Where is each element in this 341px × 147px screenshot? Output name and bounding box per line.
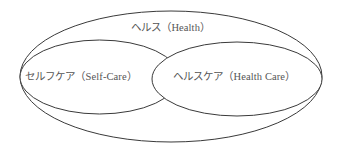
health-label: ヘルス（Health） — [131, 23, 210, 34]
health-care-label: ヘルスケア（Health Care） — [173, 72, 295, 83]
self-care-label: セルフケア（Self-Care） — [25, 72, 137, 83]
venn-diagram: ヘルス（Health） セルフケア（Self-Care） ヘルスケア（Healt… — [0, 0, 341, 147]
